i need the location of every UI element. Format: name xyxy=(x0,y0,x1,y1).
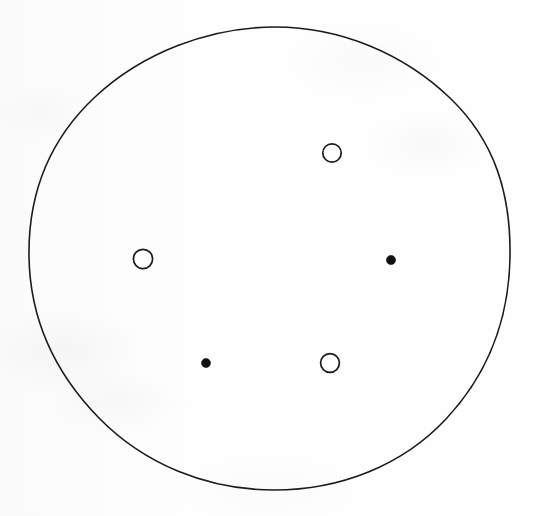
diagram-page xyxy=(0,0,534,516)
open-circle-bottom-right xyxy=(321,354,340,373)
circle-diagram xyxy=(0,0,534,516)
outer-circle-boundary xyxy=(29,27,510,490)
open-circle-top-right xyxy=(323,144,341,162)
filled-dot-right xyxy=(386,255,395,264)
open-circle-left xyxy=(133,249,152,268)
filled-dot-bottom-left xyxy=(202,359,211,368)
